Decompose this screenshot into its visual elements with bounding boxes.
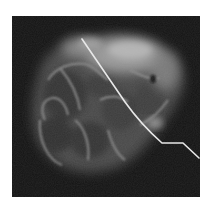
radiograph-panel [12,16,200,197]
radiograph-image [12,16,200,197]
image-frame [0,0,212,207]
